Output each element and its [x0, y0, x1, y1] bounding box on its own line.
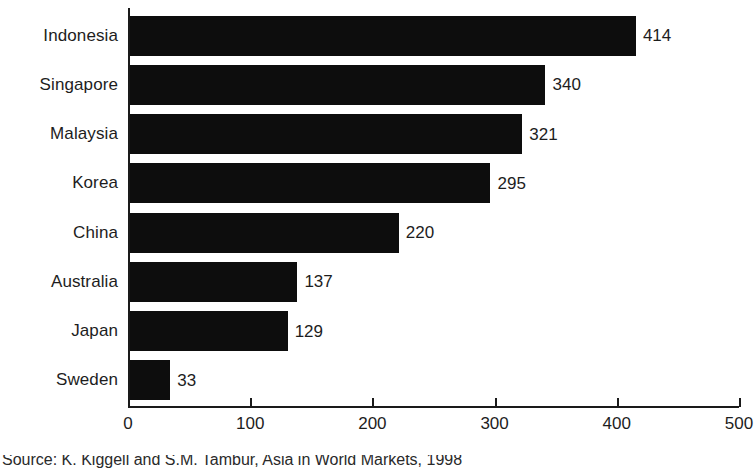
- x-axis-tick-label: 200: [358, 414, 386, 434]
- category-label: Singapore: [0, 60, 118, 109]
- plot-area: Indonesia Singapore Malaysia Korea China…: [0, 0, 754, 412]
- bar: [130, 163, 490, 203]
- category-label: Korea: [0, 159, 118, 208]
- category-label: Japan: [0, 307, 118, 356]
- bar-value-label: 220: [406, 224, 434, 241]
- source-caption: Source: K. Kiggell and S.M. Tambur, Asia…: [2, 455, 462, 469]
- bar-value-label: 295: [497, 175, 525, 192]
- category-axis-labels: Indonesia Singapore Malaysia Korea China…: [0, 11, 118, 405]
- bar: [130, 65, 545, 105]
- bar-chart: Indonesia Singapore Malaysia Korea China…: [0, 0, 754, 469]
- bar-value-label: 33: [177, 372, 196, 389]
- bar: [130, 311, 288, 351]
- bar: [130, 262, 297, 302]
- bar-row: 129: [130, 307, 742, 356]
- bar-row: 414: [130, 11, 742, 60]
- bar-row: 220: [130, 208, 742, 257]
- bar: [130, 16, 636, 56]
- x-axis-tick: [739, 398, 741, 407]
- x-axis-tick-label: 100: [236, 414, 264, 434]
- bar-row: 340: [130, 60, 742, 109]
- bar-value-label: 137: [304, 273, 332, 290]
- x-axis-tick-label: 500: [725, 414, 753, 434]
- bar-value-label: 321: [529, 126, 557, 143]
- bar-value-label: 414: [643, 27, 671, 44]
- bar-value-label: 129: [295, 323, 323, 340]
- bar-row: 137: [130, 257, 742, 306]
- x-axis-tick-label: 0: [123, 414, 132, 434]
- x-axis-tick-label: 300: [480, 414, 508, 434]
- y-axis-line: [128, 8, 130, 408]
- category-label: Sweden: [0, 356, 118, 405]
- x-axis-line: [128, 406, 739, 408]
- category-label: Australia: [0, 257, 118, 306]
- x-axis-tick: [250, 398, 252, 407]
- x-axis-tick-label: 400: [603, 414, 631, 434]
- x-axis-tick: [372, 398, 374, 407]
- x-axis-tick: [495, 398, 497, 407]
- bar-row: 33: [130, 356, 742, 405]
- bar: [130, 213, 399, 253]
- category-label: Indonesia: [0, 11, 118, 60]
- bar-value-label: 340: [552, 76, 580, 93]
- bars-region: 414 340 321 295 220 137: [130, 11, 742, 405]
- bar: [130, 360, 170, 400]
- category-label: Malaysia: [0, 110, 118, 159]
- bar-row: 295: [130, 159, 742, 208]
- source-caption-clip: Source: K. Kiggell and S.M. Tambur, Asia…: [0, 455, 754, 469]
- x-axis-tick: [617, 398, 619, 407]
- bar-row: 321: [130, 110, 742, 159]
- category-label: China: [0, 208, 118, 257]
- x-axis-tick: [128, 398, 130, 407]
- bar: [130, 114, 522, 154]
